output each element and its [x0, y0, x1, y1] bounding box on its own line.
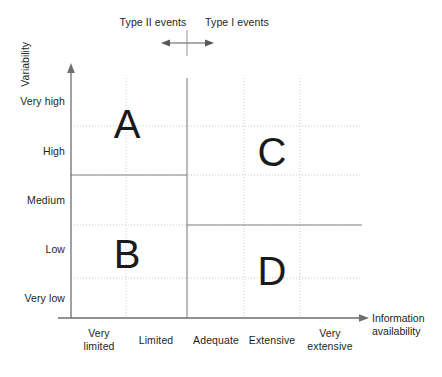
y-axis	[67, 63, 75, 318]
x-axis-arrowhead	[359, 314, 369, 322]
arrow-left-head	[161, 39, 170, 46]
quadrant-diagram: Variability Information availability Ver…	[0, 0, 442, 377]
quadrant-letter-a: A	[105, 104, 149, 144]
y-tick-label-very-low: Very low	[3, 292, 65, 305]
y-tick-label-medium: Medium	[3, 194, 65, 207]
y-tick-label-low: Low	[3, 243, 65, 256]
x-axis-title: Information availability	[372, 312, 442, 337]
quadrant-letter-b: B	[105, 234, 149, 274]
type-events-divider-arrow	[161, 30, 214, 56]
label-type-2-events: Type II events	[108, 16, 198, 29]
y-axis-arrowhead	[67, 63, 75, 73]
arrow-right-head	[205, 39, 214, 46]
y-axis-title: Variability	[19, 24, 32, 104]
quadrant-letter-d: D	[250, 251, 294, 291]
label-type-1-events: Type I events	[192, 16, 282, 29]
x-tick-label-very-extensive: Very extensive	[294, 327, 366, 352]
x-axis	[58, 314, 369, 322]
y-tick-label-very-high: Very high	[3, 95, 65, 108]
y-tick-label-high: High	[3, 145, 65, 158]
quadrant-letter-c: C	[250, 132, 294, 172]
